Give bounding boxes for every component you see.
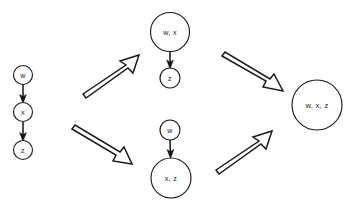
stage-fully-merged: w, x, z [292,80,342,130]
node-label: z [168,75,172,82]
transition-arrow-wx-to-final [222,52,283,91]
node-x: x [14,103,33,122]
node-label: w [166,127,173,134]
block-arrow-icon [216,131,272,174]
node-wxz: w, x, z [292,80,342,130]
diagram-canvas: w x z w, x [0,0,358,206]
transition-arrow-chain-to-wx [83,55,139,98]
edge-w-to-x [20,85,27,104]
stage-merged-wx-top: w, x z [151,13,190,89]
node-xz: x, z [151,158,191,198]
graph-contraction-diagram: w x z w, x [0,0,358,206]
node-label: x, z [165,174,177,183]
node-label: w [19,72,26,79]
block-arrow-icon [222,52,283,91]
node-label: x [21,109,25,116]
stage-merged-xz-bottom: w x, z [151,120,191,198]
node-wx: w, x [151,13,190,52]
edge-wx-to-z [167,52,174,70]
edge-w-to-xz [167,140,174,159]
block-arrow-icon [83,55,139,98]
node-label: w, x [162,28,177,37]
stage-initial-chain: w x z [14,66,33,160]
transition-arrow-xz-to-final [216,131,272,174]
node-label: w, x, z [304,101,328,110]
node-z: z [14,141,33,160]
node-label: z [21,147,25,154]
node-w: w [14,66,33,85]
block-arrow-icon [72,125,132,164]
transition-arrow-chain-to-xz [72,125,132,164]
edge-x-to-z [20,122,27,142]
node-z-top: z [160,68,180,88]
node-w-bottom: w [160,120,180,140]
